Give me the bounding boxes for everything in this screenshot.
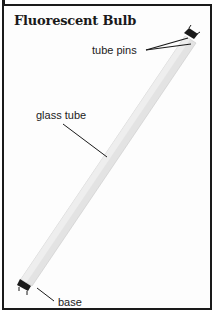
- glass-tube: [21, 36, 196, 286]
- label-base: base: [58, 296, 82, 308]
- label-glass-tube: glass tube: [36, 109, 86, 121]
- label-tube-pins: tube pins: [92, 44, 137, 56]
